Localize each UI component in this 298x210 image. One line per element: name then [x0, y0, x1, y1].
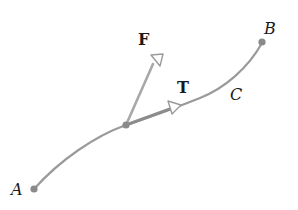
label-point-a: A [11, 182, 23, 198]
point-a-dot [30, 185, 37, 192]
label-force-vector: F [138, 32, 149, 48]
junction-point-dot [122, 121, 129, 128]
tangent-arrowhead-icon [168, 101, 181, 114]
label-tangent-vector: T [177, 80, 189, 96]
label-curve-c: C [230, 87, 242, 103]
point-b-dot [258, 38, 265, 45]
label-point-b: B [264, 21, 276, 37]
